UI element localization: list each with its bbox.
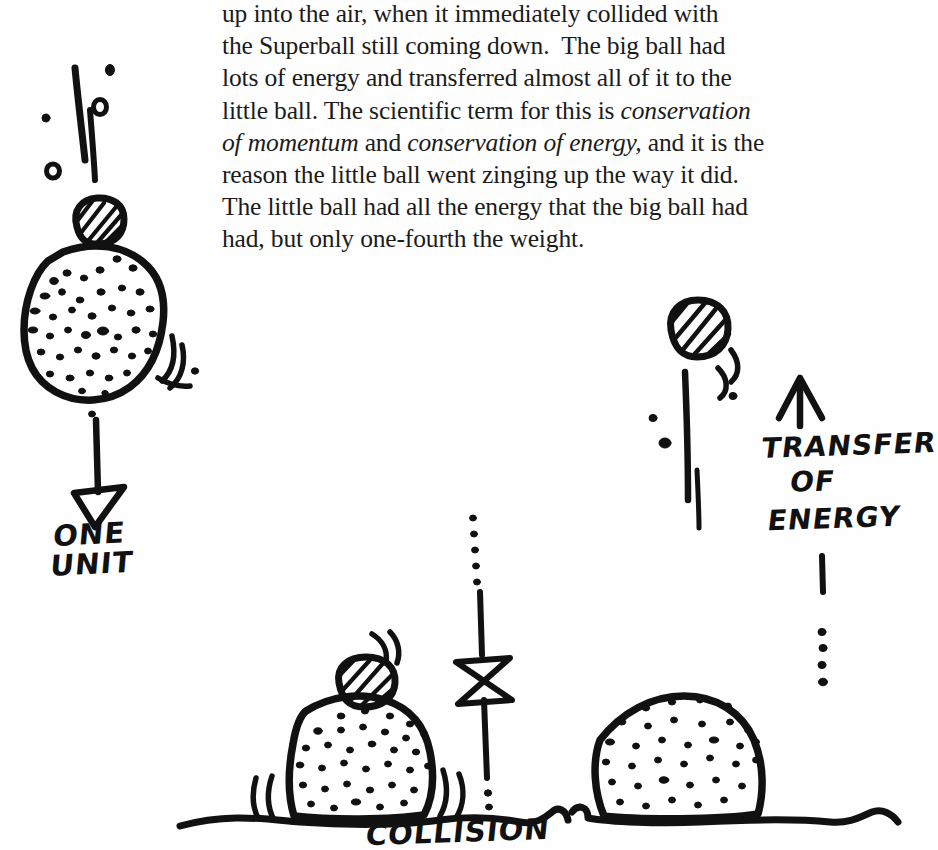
speckled-big-ball [24, 246, 199, 417]
text-line-4: little ball. The scientific term for thi… [222, 95, 922, 127]
impact-swooshes [158, 336, 190, 388]
dotted-trajectory [470, 515, 481, 585]
text-line-3: lots of energy and transferred almost al… [222, 62, 922, 94]
dotted-trail [818, 556, 828, 686]
text-line-1: up into the air, when it immediately col… [222, 0, 922, 30]
motion-streaks [42, 65, 115, 181]
label-energy: ENERGY [766, 503, 902, 536]
label-one-unit: ONE UNIT [49, 518, 137, 581]
label-collision: COLLISION [364, 815, 551, 850]
impact-swooshes [253, 770, 463, 820]
text-line-7: The little ball had all the energy that … [222, 191, 922, 223]
striped-superball [338, 657, 395, 707]
figure-collision [180, 515, 568, 826]
up-arrow [779, 378, 822, 426]
figure-ball-at-rest [572, 696, 898, 823]
impact-swooshes [372, 632, 399, 663]
body-paragraph: up into the air, when it immediately col… [222, 0, 922, 256]
speckle-dots [28, 256, 156, 396]
speckled-big-ball [289, 696, 432, 819]
text-line-5: of momentum and conservation of energy, … [222, 127, 922, 159]
down-arrow [74, 420, 124, 527]
label-of: OF [788, 468, 837, 497]
striped-superball [76, 198, 124, 244]
striped-superball [670, 300, 729, 357]
text-line-2: the Superball still coming down. The big… [222, 30, 922, 62]
figure-falling-stack [24, 65, 199, 528]
motion-streaks [685, 350, 738, 528]
text-line-8: had, but only one-fourth the weight. [222, 223, 922, 255]
speckle-dots [602, 697, 759, 809]
ground-line [572, 807, 898, 823]
bowtie-marker [456, 592, 512, 810]
text-line-6: reason the little ball went zinging up t… [222, 159, 922, 191]
label-transfer: TRANSFER [760, 429, 938, 464]
speckle-dots [296, 708, 431, 811]
figure-rebound [649, 300, 738, 528]
